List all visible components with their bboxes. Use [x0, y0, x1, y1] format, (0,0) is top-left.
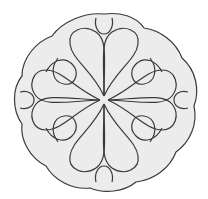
scalloped-loop-motif — [0, 0, 208, 199]
